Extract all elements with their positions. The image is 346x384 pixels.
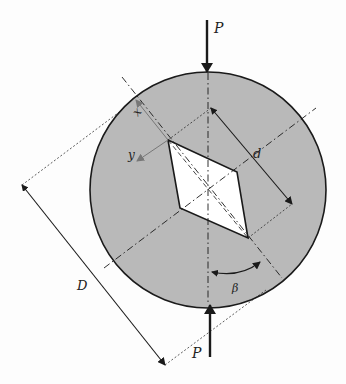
disc-diagram: d x y D β P P: [0, 0, 346, 384]
diagram-canvas: d x y D β P P: [0, 0, 346, 384]
load-label-top: P: [213, 20, 224, 36]
load-label-bottom: P: [191, 345, 202, 361]
angle-label: β: [231, 282, 238, 295]
axis-y-label: y: [127, 148, 135, 162]
flaw-length-label: d: [253, 146, 261, 161]
diameter-label: D: [76, 278, 88, 293]
